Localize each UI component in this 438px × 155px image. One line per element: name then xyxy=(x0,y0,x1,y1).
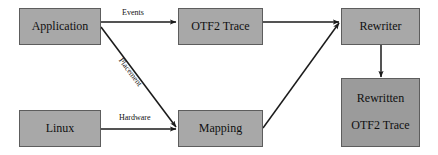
node-mapping[interactable]: Mapping xyxy=(178,110,263,147)
edge-mapping-to-rewriter xyxy=(263,23,339,128)
node-rewritten-label-line2: OTF2 Trace xyxy=(351,119,409,133)
node-otf2-trace-label: OTF2 Trace xyxy=(191,20,249,34)
node-application-label: Application xyxy=(32,20,89,34)
edge-label-hardware: Hardware xyxy=(119,113,151,122)
node-rewriter-label: Rewriter xyxy=(360,20,402,34)
pipeline-diagram: Application OTF2 Trace Rewriter Linux Ma… xyxy=(0,0,438,155)
node-application[interactable]: Application xyxy=(19,8,101,45)
node-linux-label: Linux xyxy=(46,122,75,136)
node-rewriter[interactable]: Rewriter xyxy=(341,8,420,45)
edge-label-events: Events xyxy=(122,8,144,17)
node-rewritten-otf2-trace[interactable]: Rewritten OTF2 Trace xyxy=(341,78,420,147)
node-rewritten-label-line1: Rewritten xyxy=(357,92,404,106)
node-linux[interactable]: Linux xyxy=(19,110,101,147)
node-mapping-label: Mapping xyxy=(199,122,242,136)
node-otf2-trace[interactable]: OTF2 Trace xyxy=(178,8,263,45)
